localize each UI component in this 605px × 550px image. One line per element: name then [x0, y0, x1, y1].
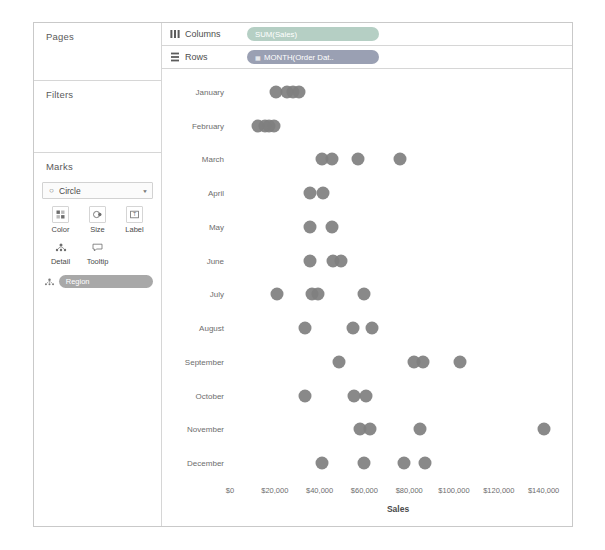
x-axis-tick-label: $20,000 — [261, 486, 288, 495]
left-panel: Pages Filters Marks ○ Circle ▼ — [34, 23, 162, 526]
detail-button[interactable]: Detail — [42, 240, 79, 266]
columns-shelf-icon — [169, 29, 180, 40]
rows-shelf[interactable]: Rows ▦ MONTH(Order Dat.. — [162, 46, 572, 69]
color-button-label: Color — [52, 225, 70, 234]
detail-icon — [53, 240, 68, 255]
rows-shelf-label: Rows — [185, 52, 247, 62]
row-header-january[interactable]: January — [196, 87, 224, 96]
right-panel: Columns SUM(Sales) Rows ▦ MONTH(Order Da… — [162, 23, 572, 526]
row-header-april[interactable]: April — [208, 189, 224, 198]
filters-card-title: Filters — [34, 88, 161, 100]
data-point[interactable] — [303, 220, 316, 233]
size-icon — [89, 206, 106, 223]
data-point[interactable] — [325, 153, 338, 166]
marks-region-pill[interactable]: Region — [59, 275, 153, 288]
marks-card: Marks ○ Circle ▼ — [34, 153, 161, 526]
tooltip-icon — [90, 240, 105, 255]
data-point[interactable] — [303, 187, 316, 200]
data-point[interactable] — [359, 389, 372, 402]
data-point[interactable] — [394, 153, 407, 166]
x-axis-tick-label: $120,000 — [483, 486, 514, 495]
data-point[interactable] — [416, 355, 429, 368]
row-header-october[interactable]: October — [196, 391, 224, 400]
row-header-august[interactable]: August — [199, 324, 224, 333]
x-axis-tick-label: $140,000 — [528, 486, 559, 495]
data-point[interactable] — [418, 457, 431, 470]
detail-button-label: Detail — [51, 257, 70, 266]
x-axis-title: Sales — [230, 504, 566, 514]
label-button[interactable]: T Label — [116, 206, 153, 234]
size-button-label: Size — [90, 225, 105, 234]
x-axis-tick-label: $80,000 — [396, 486, 423, 495]
data-point[interactable] — [351, 153, 364, 166]
tooltip-button-label: Tooltip — [87, 257, 109, 266]
tableau-worksheet: Pages Filters Marks ○ Circle ▼ — [33, 22, 573, 527]
scatter-plot-area[interactable] — [230, 75, 566, 480]
row-header-may[interactable]: May — [209, 222, 224, 231]
tooltip-button[interactable]: Tooltip — [79, 240, 116, 266]
row-header-july[interactable]: July — [210, 290, 224, 299]
row-header-november[interactable]: November — [187, 425, 224, 434]
data-point[interactable] — [271, 288, 284, 301]
calendar-icon: ▦ — [255, 54, 261, 61]
pages-card[interactable]: Pages — [34, 23, 161, 81]
visualization-pane: JanuaryFebruaryMarchAprilMayJuneJulyAugu… — [162, 69, 572, 526]
svg-text:T: T — [133, 211, 137, 217]
columns-shelf-label: Columns — [185, 29, 247, 39]
data-point[interactable] — [537, 423, 550, 436]
marks-card-title: Marks — [34, 160, 161, 172]
data-point[interactable] — [358, 457, 371, 470]
row-header-june[interactable]: June — [207, 256, 224, 265]
marks-buttons-grid: Color Size — [42, 206, 153, 266]
data-point[interactable] — [332, 355, 345, 368]
data-point[interactable] — [267, 119, 280, 132]
columns-shelf[interactable]: Columns SUM(Sales) — [162, 23, 572, 46]
mark-type-dropdown[interactable]: ○ Circle ▼ — [42, 182, 153, 199]
data-point[interactable] — [397, 457, 410, 470]
rows-pill-label: MONTH(Order Dat.. — [264, 53, 334, 62]
caret-down-icon[interactable]: ▼ — [142, 188, 148, 193]
row-header-september[interactable]: September — [185, 357, 224, 366]
x-axis: Sales $0$20,000$40,000$60,000$80,000$100… — [230, 480, 566, 526]
data-point[interactable] — [347, 322, 360, 335]
data-point[interactable] — [315, 457, 328, 470]
row-header-february[interactable]: February — [192, 121, 224, 130]
rows-shelf-icon — [169, 52, 180, 63]
data-point[interactable] — [414, 423, 427, 436]
size-button[interactable]: Size — [79, 206, 116, 234]
color-icon — [52, 206, 69, 223]
detail-icon — [43, 276, 56, 288]
filters-card[interactable]: Filters — [34, 81, 161, 153]
data-point[interactable] — [453, 355, 466, 368]
row-header-march[interactable]: March — [202, 155, 224, 164]
x-axis-tick-label: $0 — [226, 486, 234, 495]
circle-icon: ○ — [47, 186, 56, 195]
marks-pill-row: Region — [42, 275, 153, 288]
marks-card-body: ○ Circle ▼ Co — [34, 172, 161, 288]
label-button-label: Label — [125, 225, 143, 234]
data-point[interactable] — [312, 288, 325, 301]
x-axis-tick-label: $40,000 — [306, 486, 333, 495]
pages-card-title: Pages — [34, 30, 161, 42]
data-point[interactable] — [334, 254, 347, 267]
row-header-december[interactable]: December — [187, 459, 224, 468]
data-point[interactable] — [325, 220, 338, 233]
data-point[interactable] — [366, 322, 379, 335]
data-point[interactable] — [316, 187, 329, 200]
data-point[interactable] — [299, 322, 312, 335]
columns-pill-sum-sales[interactable]: SUM(Sales) — [247, 27, 379, 41]
x-axis-tick-label: $60,000 — [351, 486, 378, 495]
color-button[interactable]: Color — [42, 206, 79, 234]
rows-pill-month-order-date[interactable]: ▦ MONTH(Order Dat.. — [247, 50, 379, 64]
mark-type-label: Circle — [59, 186, 142, 196]
data-point[interactable] — [303, 254, 316, 267]
row-headers: JanuaryFebruaryMarchAprilMayJuneJulyAugu… — [162, 75, 228, 480]
data-point[interactable] — [293, 85, 306, 98]
label-icon: T — [126, 206, 143, 223]
data-point[interactable] — [299, 389, 312, 402]
x-axis-tick-label: $100,000 — [438, 486, 469, 495]
data-point[interactable] — [364, 423, 377, 436]
data-point[interactable] — [358, 288, 371, 301]
